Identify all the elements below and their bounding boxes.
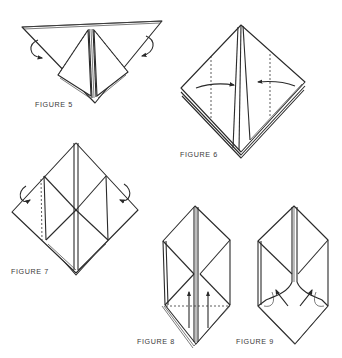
figure-7-outline (12, 143, 138, 273)
figure-9: FIGURE 9 (236, 206, 328, 346)
figure-6-label: FIGURE 6 (180, 150, 218, 159)
figure-8: FIGURE 8 (137, 206, 230, 348)
origami-diagram: FIGURE 5 FIGURE 6 (0, 0, 342, 358)
figure-5: FIGURE 5 (22, 21, 162, 109)
figure-7: FIGURE 7 (11, 143, 138, 276)
figure-6-outline (181, 25, 305, 152)
figure-9-label: FIGURE 9 (236, 337, 274, 346)
figure-5-label: FIGURE 5 (35, 100, 73, 109)
figure-7-label: FIGURE 7 (11, 267, 49, 276)
figure-8-outline (163, 206, 230, 344)
figure-6: FIGURE 6 (180, 25, 305, 159)
figure-9-outline (258, 206, 328, 344)
figure-8-label: FIGURE 8 (137, 337, 175, 346)
